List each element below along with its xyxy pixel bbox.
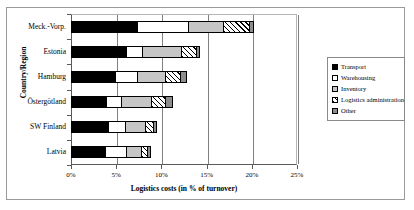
legend-swatch-other-icon — [332, 108, 338, 114]
bar-segment-inventory[interactable] — [188, 21, 223, 33]
bar-segment-inventory[interactable] — [125, 121, 145, 133]
bar-segment-warehousing[interactable] — [137, 21, 188, 33]
y-tick-mark — [67, 115, 71, 116]
bar-segment-transport[interactable] — [71, 121, 108, 133]
gridline — [208, 15, 209, 164]
y-tick-label: Östergötland — [4, 97, 66, 106]
legend-item[interactable]: Logistics administration — [332, 95, 401, 105]
bar-segment-other[interactable] — [249, 21, 254, 33]
bar-segment-logistics-administration[interactable] — [181, 46, 195, 58]
bar-segment-warehousing[interactable] — [108, 121, 125, 133]
y-tick-label: Estonia — [4, 47, 66, 56]
bar-segment-logistics-administration[interactable] — [145, 121, 153, 133]
bar-row[interactable] — [71, 96, 173, 108]
x-tick-mark — [71, 165, 72, 169]
legend-swatch-inventory-icon — [332, 86, 338, 92]
legend-item[interactable]: Inventory — [332, 84, 401, 94]
legend-swatch-transport-icon — [332, 64, 338, 70]
y-tick-mark — [67, 165, 71, 166]
y-tick-label: Meck.-Vorp. — [4, 22, 66, 31]
legend-item[interactable]: Transport — [332, 62, 401, 72]
bar-segment-other[interactable] — [196, 46, 201, 58]
bar-row[interactable] — [71, 71, 187, 83]
x-tick-mark — [116, 165, 117, 169]
bar-segment-logistics-administration[interactable] — [165, 71, 180, 83]
legend-label: Inventory — [341, 85, 366, 93]
gridline — [117, 15, 118, 164]
bar-segment-other[interactable] — [153, 121, 157, 133]
bar-segment-other[interactable] — [165, 96, 173, 108]
legend-label: Logistics administration — [341, 96, 404, 104]
gridline — [162, 15, 163, 164]
bar-segment-warehousing[interactable] — [126, 46, 141, 58]
y-tick-mark — [67, 140, 71, 141]
y-tick-mark — [67, 64, 71, 65]
bar-segment-other[interactable] — [180, 71, 186, 83]
bar-segment-transport[interactable] — [71, 21, 137, 33]
chart-legend: TransportWarehousingInventoryLogistics a… — [327, 57, 405, 121]
y-tick-label: Latvia — [4, 147, 66, 156]
bar-segment-inventory[interactable] — [121, 96, 151, 108]
y-tick-mark — [67, 90, 71, 91]
y-tick-mark — [67, 14, 71, 15]
bar-row[interactable] — [71, 146, 151, 158]
bar-segment-warehousing[interactable] — [106, 96, 120, 108]
x-tick-mark — [161, 165, 162, 169]
gridline — [253, 15, 254, 164]
plot-area — [71, 14, 297, 165]
x-tick-label: 15% — [187, 171, 227, 179]
bar-segment-inventory[interactable] — [126, 146, 141, 158]
x-tick-label: 5% — [96, 171, 136, 179]
legend-label: Other — [341, 107, 356, 115]
bar-segment-warehousing[interactable] — [115, 71, 137, 83]
x-tick-label: 0% — [51, 171, 91, 179]
y-tick-mark — [67, 39, 71, 40]
legend-swatch-logistics-administration-icon — [332, 97, 338, 103]
bar-segment-inventory[interactable] — [137, 71, 165, 83]
legend-item[interactable]: Warehousing — [332, 73, 401, 83]
bar-row[interactable] — [71, 21, 254, 33]
bar-segment-other[interactable] — [147, 146, 151, 158]
legend-swatch-warehousing-icon — [332, 75, 338, 81]
bar-row[interactable] — [71, 46, 200, 58]
x-tick-mark — [252, 165, 253, 169]
legend-item[interactable]: Other — [332, 106, 401, 116]
bar-segment-transport[interactable] — [71, 146, 105, 158]
bar-segment-logistics-administration[interactable] — [151, 96, 165, 108]
chart-figure: Country/Region 0%5%10%15%20%25% Meck.-Vo… — [0, 0, 414, 210]
bar-segment-logistics-administration[interactable] — [223, 21, 249, 33]
bar-segment-transport[interactable] — [71, 71, 115, 83]
bar-segment-inventory[interactable] — [142, 46, 182, 58]
bar-segment-transport[interactable] — [71, 46, 126, 58]
bar-segment-transport[interactable] — [71, 96, 106, 108]
x-tick-label: 25% — [277, 171, 317, 179]
bar-segment-warehousing[interactable] — [105, 146, 126, 158]
gridline — [298, 15, 299, 164]
x-axis-title: Logistics costs (in % of turnover) — [71, 184, 297, 193]
bar-row[interactable] — [71, 121, 157, 133]
x-tick-label: 10% — [141, 171, 181, 179]
y-tick-label: Hamburg — [4, 72, 66, 81]
x-tick-label: 20% — [232, 171, 272, 179]
legend-label: Transport — [341, 63, 366, 71]
x-tick-mark — [207, 165, 208, 169]
y-tick-label: SW Finland — [4, 122, 66, 131]
legend-label: Warehousing — [341, 74, 375, 82]
x-tick-mark — [297, 165, 298, 169]
